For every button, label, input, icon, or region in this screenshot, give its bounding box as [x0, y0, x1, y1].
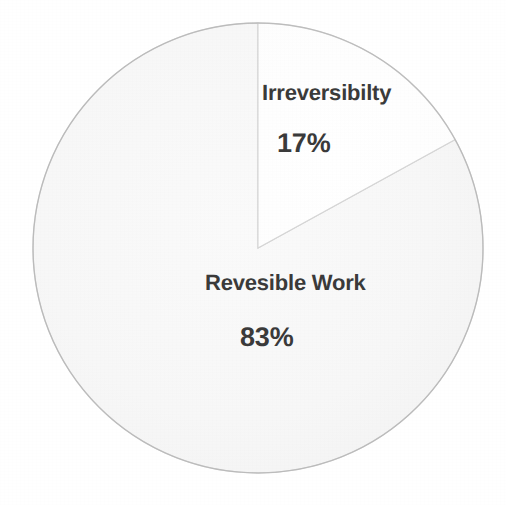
pie-chart-figure: Irreversibilty 17% Revesible Work 83%	[0, 0, 506, 505]
pie-chart-canvas	[0, 0, 506, 505]
slice-label-reversible-work: Revesible Work	[205, 270, 366, 296]
slice-label-irreversibility: Irreversibilty	[262, 80, 391, 106]
slice-value-irreversibility: 17%	[277, 128, 330, 159]
slice-value-reversible-work: 83%	[240, 322, 293, 353]
